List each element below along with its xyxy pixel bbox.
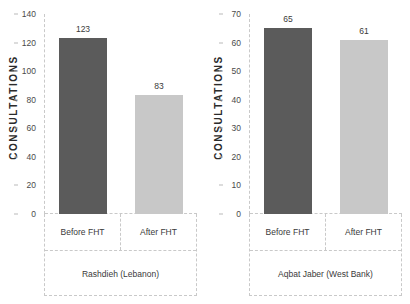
- y-tick-label: 50: [232, 66, 241, 76]
- y-tick-label: 20: [232, 152, 241, 162]
- y-tick-label: 60: [27, 123, 36, 133]
- plot-area: 6561: [249, 14, 402, 214]
- bar: 65: [264, 28, 312, 214]
- y-tick-label: 20: [27, 180, 36, 190]
- bar: 123: [59, 38, 107, 214]
- y-axis-ticks: 020406080100120140: [14, 14, 40, 214]
- y-tick-label: 120: [22, 38, 36, 48]
- chart-panel-rashdieh: CONSULTATIONS 020406080100120140 12383 B…: [0, 0, 205, 304]
- bar: 61: [340, 40, 388, 214]
- y-tick-mark: [219, 214, 223, 215]
- y-tick-label: 30: [232, 123, 241, 133]
- y-tick-label: 0: [236, 209, 241, 219]
- y-tick-label: 100: [22, 66, 36, 76]
- y-tick-mark: [219, 128, 223, 129]
- y-tick-label: 0: [31, 209, 36, 219]
- plot-area: 12383: [44, 14, 197, 214]
- category-frame: Before FHT After FHT Rashdieh (Lebanon): [44, 214, 197, 296]
- bar-slot: 65: [250, 14, 326, 214]
- bar-slot: 83: [121, 14, 197, 214]
- y-tick-mark: [219, 14, 223, 15]
- y-tick-label: 140: [22, 9, 36, 19]
- y-tick-label: 60: [232, 38, 241, 48]
- bar: 83: [135, 95, 183, 214]
- bar-value-label: 83: [135, 81, 183, 91]
- group-label: Rashdieh (Lebanon): [45, 251, 196, 296]
- y-tick-mark: [219, 156, 223, 157]
- y-tick-mark: [14, 185, 18, 186]
- y-tick-mark: [14, 71, 18, 72]
- bar-slot: 61: [326, 14, 402, 214]
- category-label: Before FHT: [45, 214, 120, 250]
- bar-series: 12383: [45, 14, 197, 214]
- y-tick-mark: [14, 214, 18, 215]
- bar-value-label: 65: [264, 14, 312, 24]
- category-label: After FHT: [120, 214, 196, 250]
- category-label-row: Before FHT After FHT: [250, 214, 401, 251]
- y-tick-mark: [14, 156, 18, 157]
- category-frame: Before FHT After FHT Aqbat Jaber (West B…: [249, 214, 402, 296]
- y-tick-label: 40: [232, 95, 241, 105]
- bar-slot: 123: [45, 14, 121, 214]
- y-tick-mark: [14, 14, 18, 15]
- y-tick-label: 40: [27, 152, 36, 162]
- bar-value-label: 61: [340, 26, 388, 36]
- y-tick-label: 10: [232, 180, 241, 190]
- category-label: Before FHT: [250, 214, 325, 250]
- bar-chart-figure: CONSULTATIONS 020406080100120140 12383 B…: [0, 0, 410, 304]
- y-tick-mark: [14, 42, 18, 43]
- group-label: Aqbat Jaber (West Bank): [250, 251, 401, 296]
- y-tick-mark: [14, 99, 18, 100]
- y-tick-mark: [219, 99, 223, 100]
- bar-value-label: 123: [59, 24, 107, 34]
- y-tick-mark: [219, 185, 223, 186]
- y-tick-mark: [14, 128, 18, 129]
- category-label-row: Before FHT After FHT: [45, 214, 196, 251]
- y-tick-label: 70: [232, 9, 241, 19]
- y-tick-mark: [219, 42, 223, 43]
- chart-panel-aqbat-jaber: CONSULTATIONS 010203040506070 6561 Befor…: [205, 0, 410, 304]
- y-axis-ticks: 010203040506070: [219, 14, 245, 214]
- y-tick-label: 80: [27, 95, 36, 105]
- bar-series: 6561: [250, 14, 402, 214]
- category-label: After FHT: [325, 214, 401, 250]
- y-tick-mark: [219, 71, 223, 72]
